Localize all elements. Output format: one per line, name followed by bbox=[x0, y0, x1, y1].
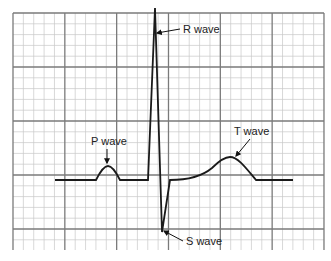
r-wave-label: R wave bbox=[183, 23, 220, 35]
p-wave-label: P wave bbox=[91, 135, 127, 147]
s-wave-label: S wave bbox=[186, 235, 222, 247]
ecg-diagram: P wave R wave T wave S wave bbox=[0, 0, 331, 261]
ecg-trace bbox=[55, 8, 293, 232]
t-wave-label: T wave bbox=[234, 125, 269, 137]
